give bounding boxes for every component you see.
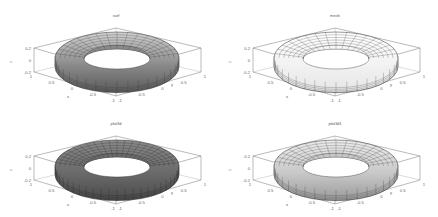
svg-text:1: 1 — [30, 74, 33, 79]
svg-text:0: 0 — [248, 58, 251, 63]
z-axis-label: z — [8, 169, 13, 171]
figure-grid: surf0.20-0.2z10.50-0.5-1x-1-0.500.51ymes… — [0, 0, 438, 217]
plot-title: plot3d — [111, 121, 122, 126]
z-axis-label: z — [8, 61, 13, 63]
svg-text:0.5: 0.5 — [49, 80, 55, 85]
svg-text:0.5: 0.5 — [181, 188, 187, 193]
torus-plot: surf0.20-0.2z10.50-0.5-1x-1-0.500.51y — [0, 0, 219, 108]
svg-text:0: 0 — [290, 86, 293, 91]
svg-text:0: 0 — [380, 194, 383, 199]
svg-text:0: 0 — [161, 86, 164, 91]
svg-text:y: y — [171, 82, 174, 87]
svg-text:0.2: 0.2 — [244, 46, 250, 51]
svg-text:-0.5: -0.5 — [308, 92, 316, 97]
svg-text:x: x — [286, 202, 289, 207]
svg-text:-0.5: -0.5 — [308, 200, 316, 205]
svg-text:-0.5: -0.5 — [357, 200, 365, 205]
svg-text:-0.5: -0.5 — [89, 200, 97, 205]
svg-text:0: 0 — [290, 194, 293, 199]
svg-text:0.2: 0.2 — [244, 154, 250, 159]
plot-title: surf — [113, 13, 121, 18]
z-axis-label: z — [227, 169, 232, 171]
svg-text:0: 0 — [71, 194, 74, 199]
plot-panel-surf: surf0.20-0.2z10.50-0.5-1x-1-0.500.51y — [0, 0, 219, 108]
plot-title: mesh — [330, 13, 340, 18]
svg-text:1: 1 — [204, 74, 207, 79]
z-tick-labels: 0.20-0.2 — [243, 154, 251, 183]
svg-text:1: 1 — [204, 182, 207, 187]
svg-text:0.2: 0.2 — [25, 46, 31, 51]
svg-text:x: x — [67, 202, 70, 207]
svg-text:0: 0 — [248, 166, 251, 171]
z-tick-labels: 0.20-0.2 — [24, 46, 32, 75]
torus-plot: plot3d10.20-0.2z10.50-0.5-1x-1-0.500.51y — [219, 108, 438, 216]
torus-surface — [274, 32, 398, 93]
svg-text:-1: -1 — [330, 206, 334, 211]
torus-plot: mesh0.20-0.2z10.50-0.5-1x-1-0.500.51y — [219, 0, 438, 108]
svg-text:x: x — [286, 94, 289, 99]
svg-text:0: 0 — [71, 86, 74, 91]
svg-text:x: x — [67, 94, 70, 99]
svg-text:-0.5: -0.5 — [89, 92, 97, 97]
svg-text:-0.5: -0.5 — [138, 200, 146, 205]
svg-text:-1: -1 — [111, 98, 115, 103]
svg-text:y: y — [390, 82, 393, 87]
svg-text:y: y — [390, 190, 393, 195]
plot-title: plot3d1 — [328, 121, 342, 126]
svg-text:-1: -1 — [118, 206, 122, 211]
z-tick-labels: 0.20-0.2 — [24, 154, 32, 183]
svg-text:0: 0 — [29, 58, 32, 63]
torus-plot: plot3d0.20-0.2z10.50-0.5-1x-1-0.500.51y — [0, 108, 219, 216]
svg-text:0.5: 0.5 — [49, 188, 55, 193]
z-axis-label: z — [227, 61, 232, 63]
svg-text:-1: -1 — [330, 98, 334, 103]
svg-text:0.5: 0.5 — [400, 188, 406, 193]
svg-text:0: 0 — [380, 86, 383, 91]
svg-text:-1: -1 — [337, 98, 341, 103]
svg-text:0: 0 — [161, 194, 164, 199]
torus-surface — [55, 140, 179, 201]
svg-text:1: 1 — [423, 182, 426, 187]
svg-text:y: y — [171, 190, 174, 195]
svg-text:0.2: 0.2 — [25, 154, 31, 159]
z-tick-labels: 0.20-0.2 — [243, 46, 251, 75]
svg-text:-0.5: -0.5 — [138, 92, 146, 97]
plot-panel-plot3d: plot3d0.20-0.2z10.50-0.5-1x-1-0.500.51y — [0, 108, 219, 216]
svg-text:1: 1 — [423, 74, 426, 79]
svg-text:0.5: 0.5 — [181, 80, 187, 85]
svg-text:1: 1 — [249, 182, 252, 187]
svg-text:-0.5: -0.5 — [357, 92, 365, 97]
svg-text:0.5: 0.5 — [400, 80, 406, 85]
plot-panel-mesh: mesh0.20-0.2z10.50-0.5-1x-1-0.500.51y — [219, 0, 438, 108]
svg-text:1: 1 — [249, 74, 252, 79]
svg-text:0.5: 0.5 — [268, 80, 274, 85]
svg-text:-1: -1 — [337, 206, 341, 211]
svg-text:0: 0 — [29, 166, 32, 171]
svg-text:1: 1 — [30, 182, 33, 187]
svg-text:-1: -1 — [111, 206, 115, 211]
plot-panel-plot3d1: plot3d10.20-0.2z10.50-0.5-1x-1-0.500.51y — [219, 108, 438, 216]
svg-text:0.5: 0.5 — [268, 188, 274, 193]
svg-text:-1: -1 — [118, 98, 122, 103]
torus-surface — [55, 32, 179, 93]
torus-surface — [274, 140, 398, 201]
